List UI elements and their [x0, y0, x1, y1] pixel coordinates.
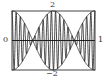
y-max-label: 2 [50, 1, 55, 9]
y-min-label: −2 [46, 70, 58, 78]
x-min-label: 0 [3, 36, 8, 44]
beat-plot [0, 0, 104, 78]
x-max-label: 1 [98, 36, 103, 44]
